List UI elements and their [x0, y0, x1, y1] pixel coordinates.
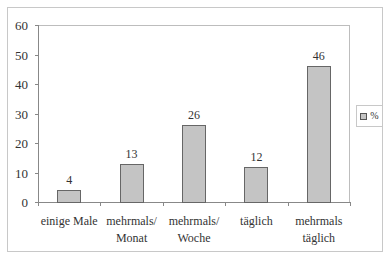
y-tick [35, 84, 39, 85]
x-tick-label: mehrmals/Monat [101, 213, 163, 247]
x-tick-label: einige Male [38, 213, 100, 230]
y-tick [35, 55, 39, 56]
x-tick-label-line: mehrmals/ [163, 213, 225, 230]
x-tick-label: täglich [225, 213, 287, 230]
y-tick-label: 0 [0, 196, 28, 209]
bar [307, 66, 331, 203]
y-tick [35, 25, 39, 26]
y-tick [35, 173, 39, 174]
x-tick [163, 202, 164, 206]
y-tick [35, 143, 39, 144]
x-tick-label-line: Woche [163, 230, 225, 247]
y-tick-label: 40 [0, 78, 28, 91]
y-tick-label: 30 [0, 108, 28, 121]
bar [182, 125, 206, 203]
y-tick-label: 10 [0, 167, 28, 180]
x-tick-label-line: täglich [288, 230, 350, 247]
bar [57, 190, 81, 203]
x-tick-label-line: einige Male [38, 213, 100, 230]
y-tick-label: 60 [0, 19, 28, 32]
x-tick-label-line: täglich [225, 213, 287, 230]
data-label: 12 [236, 151, 276, 163]
x-tick-label-line: mehrmals/ [101, 213, 163, 230]
x-tick-label-line: Monat [101, 230, 163, 247]
legend-swatch [360, 113, 367, 120]
x-tick [100, 202, 101, 206]
x-tick [350, 202, 351, 206]
x-tick-label-line: mehrmals [288, 213, 350, 230]
bar [120, 164, 144, 203]
data-label: 4 [49, 174, 89, 186]
legend: % [356, 105, 383, 127]
y-tick-label: 20 [0, 137, 28, 150]
legend-label: % [370, 111, 378, 121]
x-tick [38, 202, 39, 206]
x-tick-label: mehrmalstäglich [288, 213, 350, 247]
data-label: 26 [174, 109, 214, 121]
data-label: 46 [299, 50, 339, 62]
x-tick [288, 202, 289, 206]
y-tick [35, 114, 39, 115]
y-tick-label: 50 [0, 49, 28, 62]
bar [244, 167, 268, 203]
x-tick [225, 202, 226, 206]
data-label: 13 [112, 148, 152, 160]
x-tick-label: mehrmals/Woche [163, 213, 225, 247]
